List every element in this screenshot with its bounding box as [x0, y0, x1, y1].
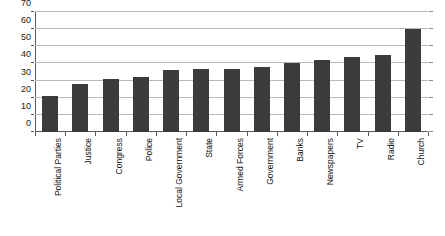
bar-slot: [368, 12, 398, 132]
right-tick-0: [429, 131, 433, 132]
category-label: Banks: [296, 138, 305, 162]
category-label-slot: State: [186, 138, 216, 234]
category-label: State: [205, 138, 214, 158]
x-tick: [186, 132, 187, 136]
right-tick-10: [429, 114, 433, 115]
bar-slot: [247, 12, 277, 132]
bar-slot: [307, 12, 337, 132]
category-label-slot: Newspapers: [307, 138, 337, 234]
x-tick: [35, 132, 36, 136]
bar: [224, 69, 240, 132]
bar: [375, 55, 391, 132]
bar-chart: 010203040506070 Political PartiesJustice…: [0, 0, 445, 236]
plot-area: [35, 12, 428, 132]
bar: [314, 60, 330, 132]
x-tick: [216, 132, 217, 136]
x-tick: [156, 132, 157, 136]
y-tick-mark-60: [31, 28, 34, 29]
y-tick-mark-70: [31, 11, 34, 12]
category-label: Police: [145, 138, 154, 161]
bar-slot: [65, 12, 95, 132]
y-tick-mark-30: [31, 80, 34, 81]
category-label-slot: Church: [398, 138, 428, 234]
x-axis-category-labels: Political PartiesJusticeCongressPoliceLo…: [35, 138, 428, 234]
y-tick-mark-50: [31, 45, 34, 46]
category-label: Justice: [84, 138, 93, 164]
y-tick-label-0: 0: [3, 119, 31, 128]
bar-slot: [35, 12, 65, 132]
x-tick: [398, 132, 399, 136]
right-tick-60: [429, 28, 433, 29]
bar: [193, 69, 209, 132]
bar-slot: [186, 12, 216, 132]
bar: [163, 70, 179, 132]
y-tick-mark-40: [31, 62, 34, 63]
x-tick: [337, 132, 338, 136]
bar-slot: [95, 12, 125, 132]
x-tick: [247, 132, 248, 136]
bar-slot: [398, 12, 428, 132]
category-label: Newspapers: [326, 138, 335, 185]
category-label: Radio: [387, 138, 396, 160]
category-label-slot: Local Government: [156, 138, 186, 234]
category-label: Political Parties: [54, 138, 63, 196]
y-tick-mark-20: [31, 97, 34, 98]
bar-slot: [216, 12, 246, 132]
category-label: Government: [266, 138, 275, 185]
category-label-slot: TV: [337, 138, 367, 234]
category-label-slot: Police: [126, 138, 156, 234]
right-tick-50: [429, 45, 433, 46]
bar-series: [35, 12, 428, 132]
y-tick-label-40: 40: [3, 50, 31, 59]
bar: [103, 79, 119, 132]
category-label: Armed Forces: [236, 138, 245, 191]
bar: [42, 96, 58, 132]
category-label: Congress: [115, 138, 124, 174]
bar-slot: [337, 12, 367, 132]
bar-slot: [126, 12, 156, 132]
right-tick-40: [429, 62, 433, 63]
category-label-slot: Justice: [65, 138, 95, 234]
x-axis-ticks: [35, 132, 428, 137]
y-tick-label-70: 70: [3, 0, 31, 8]
category-label-slot: Political Parties: [35, 138, 65, 234]
category-label-slot: Banks: [277, 138, 307, 234]
bar-slot: [277, 12, 307, 132]
bar: [344, 57, 360, 132]
category-label: TV: [356, 138, 365, 149]
y-tick-mark-10: [31, 114, 34, 115]
y-axis-tick-labels: 010203040506070: [0, 12, 31, 132]
bar: [284, 63, 300, 132]
y-tick-label-30: 30: [3, 68, 31, 77]
right-tick-30: [429, 80, 433, 81]
bar: [254, 67, 270, 132]
y-tick-label-10: 10: [3, 102, 31, 111]
category-label: Church: [417, 138, 426, 165]
x-tick: [277, 132, 278, 136]
bar: [405, 29, 421, 132]
y-tick-label-50: 50: [3, 33, 31, 42]
category-label-slot: Government: [247, 138, 277, 234]
category-label: Local Government: [175, 138, 184, 207]
bar-slot: [156, 12, 186, 132]
right-tick-20: [429, 97, 433, 98]
bar: [133, 77, 149, 132]
category-label-slot: Armed Forces: [216, 138, 246, 234]
category-label-slot: Congress: [95, 138, 125, 234]
x-tick: [307, 132, 308, 136]
x-tick: [95, 132, 96, 136]
right-tick-70: [429, 11, 433, 12]
x-tick: [126, 132, 127, 136]
x-tick: [65, 132, 66, 136]
y-tick-label-20: 20: [3, 85, 31, 94]
category-label-slot: Radio: [368, 138, 398, 234]
x-tick: [428, 132, 429, 136]
bar: [72, 84, 88, 132]
x-tick: [368, 132, 369, 136]
y-tick-mark-0: [31, 131, 34, 132]
y-tick-label-60: 60: [3, 16, 31, 25]
